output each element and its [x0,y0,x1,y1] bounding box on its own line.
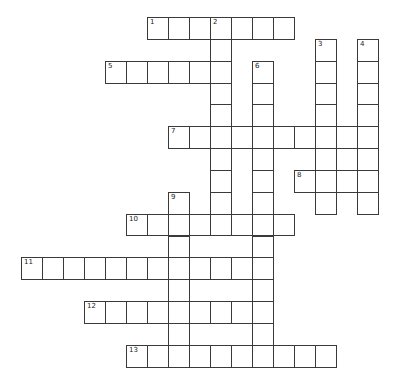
crossword-cell[interactable] [189,301,211,324]
crossword-cell[interactable] [252,170,274,193]
crossword-cell[interactable] [252,236,274,259]
crossword-cell[interactable] [294,345,316,368]
crossword-cell[interactable] [210,192,232,215]
crossword-cell[interactable] [210,170,232,193]
crossword-cell[interactable] [252,279,274,302]
crossword-cell[interactable] [315,170,337,193]
crossword-cell[interactable] [168,214,190,237]
crossword-cell[interactable] [189,126,211,149]
crossword-cell[interactable] [168,345,190,368]
crossword-cell[interactable] [168,61,190,84]
crossword-cell[interactable] [126,301,148,324]
crossword-cell[interactable] [315,148,337,171]
crossword-cell[interactable]: 2 [210,17,232,40]
crossword-cell[interactable] [252,345,274,368]
crossword-cell[interactable]: 8 [294,170,316,193]
crossword-cell[interactable] [252,257,274,280]
clue-number: 5 [108,63,112,70]
crossword-cell[interactable] [189,17,211,40]
crossword-cell[interactable] [126,61,148,84]
crossword-cell[interactable] [252,214,274,237]
crossword-cell[interactable] [231,214,253,237]
crossword-cell[interactable] [210,257,232,280]
crossword-cell[interactable] [357,104,379,127]
crossword-cell[interactable] [252,126,274,149]
crossword-cell[interactable] [168,257,190,280]
crossword-cell[interactable]: 6 [252,61,274,84]
crossword-cell[interactable] [273,214,295,237]
crossword-cell[interactable] [357,148,379,171]
crossword-cell[interactable] [63,257,85,280]
crossword-cell[interactable] [315,192,337,215]
crossword-cell[interactable] [252,148,274,171]
crossword-cell[interactable] [273,126,295,149]
crossword-cell[interactable] [273,17,295,40]
crossword-cell[interactable] [315,61,337,84]
crossword-cell[interactable] [357,192,379,215]
crossword-cell[interactable] [231,301,253,324]
crossword-cell[interactable] [336,126,358,149]
crossword-cell[interactable] [189,61,211,84]
crossword-cell[interactable] [147,257,169,280]
crossword-cell[interactable] [357,170,379,193]
crossword-cell[interactable] [315,126,337,149]
crossword-cell[interactable] [147,214,169,237]
crossword-cell[interactable] [231,257,253,280]
crossword-cell[interactable] [126,257,148,280]
crossword-cell[interactable]: 12 [84,301,106,324]
crossword-cell[interactable]: 4 [357,39,379,62]
crossword-cell[interactable]: 10 [126,214,148,237]
crossword-cell[interactable] [252,17,274,40]
crossword-cell[interactable] [168,279,190,302]
crossword-cell[interactable] [294,126,316,149]
clue-number: 10 [129,216,138,223]
crossword-cell[interactable] [210,214,232,237]
crossword-cell[interactable] [252,83,274,106]
crossword-cell[interactable] [357,83,379,106]
crossword-cell[interactable] [315,345,337,368]
crossword-cell[interactable] [189,214,211,237]
crossword-cell[interactable] [147,301,169,324]
crossword-cell[interactable] [168,301,190,324]
crossword-cell[interactable] [252,104,274,127]
crossword-cell[interactable]: 11 [21,257,43,280]
crossword-cell[interactable] [273,345,295,368]
crossword-cell[interactable] [336,170,358,193]
crossword-cell[interactable] [252,301,274,324]
clue-number: 4 [360,41,364,48]
crossword-cell[interactable]: 13 [126,345,148,368]
crossword-cell[interactable] [210,345,232,368]
crossword-cell[interactable] [168,323,190,346]
crossword-cell[interactable] [210,83,232,106]
crossword-cell[interactable]: 3 [315,39,337,62]
crossword-cell[interactable] [231,126,253,149]
crossword-cell[interactable] [147,61,169,84]
crossword-cell[interactable] [210,104,232,127]
crossword-cell[interactable] [315,83,337,106]
crossword-cell[interactable] [168,236,190,259]
crossword-cell[interactable] [252,192,274,215]
crossword-cell[interactable] [210,126,232,149]
crossword-cell[interactable] [84,257,106,280]
crossword-cell[interactable] [168,17,190,40]
crossword-cell[interactable] [42,257,64,280]
crossword-cell[interactable] [210,148,232,171]
crossword-cell[interactable]: 5 [105,61,127,84]
crossword-cell[interactable] [315,104,337,127]
crossword-cell[interactable] [147,345,169,368]
crossword-cell[interactable] [105,257,127,280]
crossword-cell[interactable] [357,126,379,149]
crossword-cell[interactable]: 1 [147,17,169,40]
crossword-cell[interactable] [105,301,127,324]
crossword-cell[interactable] [231,17,253,40]
crossword-cell[interactable] [189,257,211,280]
crossword-cell[interactable] [210,301,232,324]
crossword-cell[interactable] [210,61,232,84]
crossword-cell[interactable] [231,345,253,368]
crossword-cell[interactable] [252,323,274,346]
crossword-cell[interactable]: 9 [168,192,190,215]
crossword-cell[interactable] [210,39,232,62]
crossword-cell[interactable] [357,61,379,84]
crossword-cell[interactable] [189,345,211,368]
crossword-cell[interactable]: 7 [168,126,190,149]
